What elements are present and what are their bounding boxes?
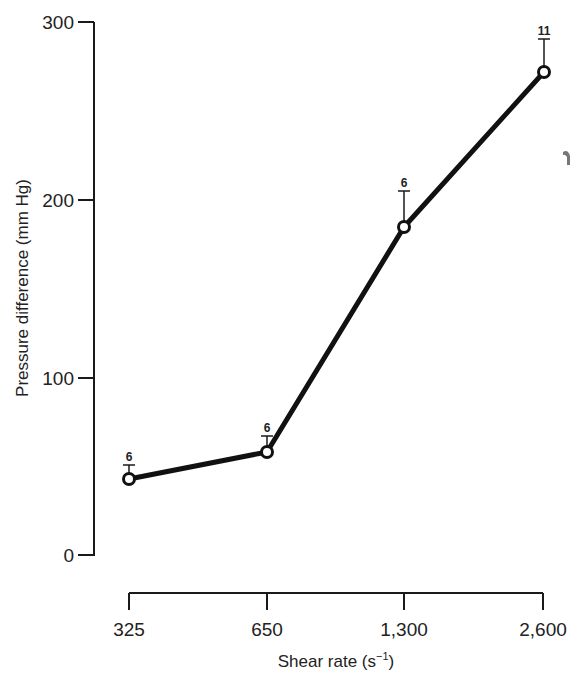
n-label: 6 bbox=[126, 450, 133, 464]
y-axis-title: Pressure difference (mm Hg) bbox=[13, 179, 32, 397]
x-tick-label: 650 bbox=[251, 619, 283, 640]
n-label: 11 bbox=[538, 24, 551, 38]
data-line bbox=[129, 72, 544, 479]
y-tick-label: 200 bbox=[42, 190, 74, 211]
data-markers bbox=[124, 67, 550, 485]
x-tick-label: 1,300 bbox=[380, 619, 428, 640]
error-bars bbox=[123, 39, 550, 479]
y-tick-label: 0 bbox=[63, 545, 74, 566]
x-axis bbox=[129, 593, 543, 610]
x-tick-label: 2,600 bbox=[519, 619, 567, 640]
x-axis-title: Shear rate (s−1) bbox=[278, 650, 394, 671]
n-label: 6 bbox=[401, 176, 408, 190]
y-axis bbox=[78, 22, 94, 556]
data-point bbox=[399, 222, 410, 233]
scan-artifact-mark bbox=[563, 151, 570, 165]
chart: 300 200 100 0 Pressure difference (mm Hg… bbox=[0, 0, 586, 683]
n-label: 6 bbox=[264, 421, 271, 435]
data-point bbox=[262, 447, 273, 458]
data-point bbox=[124, 474, 135, 485]
y-tick-label: 100 bbox=[42, 368, 74, 389]
x-tick-label: 325 bbox=[113, 619, 145, 640]
data-point bbox=[539, 67, 550, 78]
y-tick-label: 300 bbox=[42, 12, 74, 33]
